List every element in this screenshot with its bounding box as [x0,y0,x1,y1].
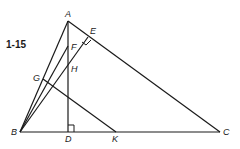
figure-label: 1-15 [6,39,26,50]
point-label-a: A [64,9,71,19]
segment-bf [20,46,68,132]
segment-ab [20,21,68,132]
geometry-diagram: 1-15 A E F H G B D K C [0,0,240,149]
point-label-c: C [223,127,230,137]
point-label-f: F [71,42,77,52]
right-angle-mark-d [68,125,74,132]
point-label-e: E [90,26,97,36]
point-label-h: H [71,64,78,74]
segment-gk [43,79,116,132]
point-label-b: B [11,127,17,137]
segment-be [20,37,88,132]
point-label-k: K [112,134,119,144]
point-label-d: D [65,134,72,144]
segment-ac [68,21,220,132]
point-label-g: G [33,73,40,83]
